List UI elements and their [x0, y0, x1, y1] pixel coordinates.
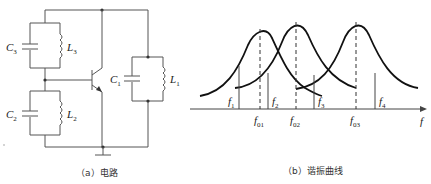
label-f3: f3	[318, 95, 325, 110]
transistor-icon	[92, 68, 102, 147]
capacitor-icon	[124, 76, 140, 81]
resonance-curve-1	[200, 31, 322, 96]
caption-a: （a）电路	[76, 167, 118, 178]
inductor-icon	[163, 67, 165, 91]
label-l2: L2	[66, 108, 77, 123]
label-c2: C2	[6, 108, 17, 123]
inductor-icon	[60, 101, 62, 125]
resonance-chart: f f1 f2 f3 f4 f01 f02 f03 （b）谐振曲线	[190, 22, 427, 176]
circuit-diagram: C3 L3 C2 L2	[3, 8, 180, 178]
label-f1: f1	[228, 95, 235, 110]
axis-label-f: f	[420, 115, 425, 127]
circuit-and-resonance-figure: C3 L3 C2 L2	[0, 0, 431, 184]
label-l1: L1	[169, 73, 180, 88]
inductor-icon	[60, 34, 62, 58]
base-wire	[45, 68, 92, 91]
label-f4: f4	[379, 95, 386, 110]
label-c3: C3	[6, 41, 17, 56]
capacitor-icon	[22, 111, 38, 116]
label-f01: f01	[254, 114, 265, 129]
axis-arrow-icon	[420, 106, 427, 112]
caption-b: （b）谐振曲线	[283, 165, 343, 176]
ground-icon	[95, 147, 111, 155]
tank-c3-l3	[22, 23, 62, 68]
tank-c1-l1	[124, 55, 165, 102]
label-f03: f03	[350, 114, 361, 129]
label-c1: C1	[110, 73, 121, 88]
label-l3: L3	[66, 41, 77, 56]
label-f02: f02	[290, 114, 301, 129]
label-f2: f2	[272, 95, 279, 110]
tank-c2-l2	[22, 91, 62, 135]
capacitor-icon	[22, 44, 38, 49]
junction-dot	[43, 78, 46, 81]
